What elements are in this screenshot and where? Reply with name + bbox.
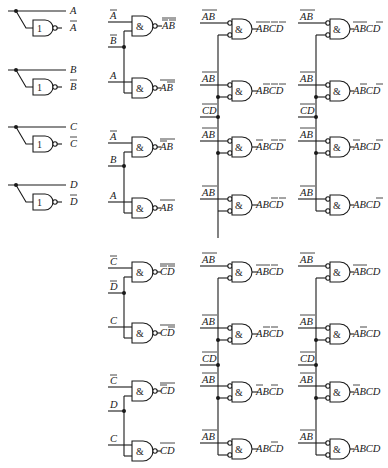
label-a: A <box>69 5 77 16</box>
output-minterm: ABCD <box>255 266 284 277</box>
output-minterm: ABCD <box>352 85 381 96</box>
and-column-3-top: AB & ABCD AB & ABCD CD AB <box>200 10 284 238</box>
and-symbol: & <box>235 329 243 340</box>
input-ab: AB <box>299 73 313 84</box>
input-ab: AB <box>299 129 313 140</box>
output-cd: CD <box>160 445 175 456</box>
input-ab: AB <box>299 254 313 265</box>
and-symbol: & <box>333 142 341 153</box>
input-ab: AB <box>201 431 215 442</box>
inverter-c: 1 C C <box>8 121 78 152</box>
output-minterm: ABCD <box>255 328 284 339</box>
output-minterm: ABCD <box>255 23 284 34</box>
input-ab: AB <box>201 374 215 385</box>
input-ab: AB <box>201 316 215 327</box>
input-ab: AB <box>201 254 215 265</box>
and-gate: AB & ABCD <box>298 72 381 101</box>
and-gate: AB & ABCD <box>298 186 381 215</box>
output-minterm: ABCD <box>255 386 284 397</box>
inverter-a: 1 A A <box>8 5 77 36</box>
label-a-bar: A <box>109 10 117 21</box>
label-c: C <box>110 433 118 444</box>
label-b-bar: B <box>70 81 77 92</box>
and-symbol: & <box>333 267 341 278</box>
output-ab: AB <box>159 202 173 213</box>
bus-cd: CD <box>300 105 315 116</box>
and-symbol: & <box>136 83 144 94</box>
label-c: C <box>70 121 78 132</box>
output-cd: CD <box>160 327 175 338</box>
label-a-bar: A <box>69 22 77 33</box>
and-gate: AB & ABCD <box>298 10 381 39</box>
and-symbol: & <box>136 328 144 339</box>
output-ab: AB <box>159 141 173 152</box>
label-b: B <box>110 154 117 165</box>
inverter-b: 1 B B <box>8 64 77 95</box>
and-gate: AB & ABCD <box>200 10 284 39</box>
nand-pair-ab-1: A & AB B A & AB <box>108 10 176 98</box>
and-column-4-top: AB & ABCD AB & ABCD CD AB <box>298 10 381 215</box>
and-gate: AB & ABCD <box>200 72 284 101</box>
bus-cd: CD <box>300 353 315 364</box>
label-c-bar: C <box>110 256 118 267</box>
label-b-bar: B <box>110 35 117 46</box>
and-symbol: & <box>235 387 243 398</box>
nand-pair-cd-2: C & CD D C & CD <box>108 375 175 461</box>
output-cd: CD <box>160 385 175 396</box>
inverter-symbol: 1 <box>37 23 42 34</box>
label-d: D <box>109 399 118 410</box>
and-symbol: & <box>235 142 243 153</box>
label-c-bar: C <box>70 138 78 149</box>
output-ab: AB <box>159 82 173 93</box>
and-symbol: & <box>333 24 341 35</box>
and-symbol: & <box>333 86 341 97</box>
and-gate: AB & ABCD <box>298 373 381 402</box>
and-symbol: & <box>136 21 144 32</box>
and-gate: AB & ABCD <box>200 128 284 157</box>
output-minterm: ABCD <box>352 23 381 34</box>
output-ab: AB <box>161 20 175 31</box>
output-minterm: ABCD <box>255 141 284 152</box>
and-symbol: & <box>333 200 341 211</box>
inverter-symbol: 1 <box>37 197 42 208</box>
label-c: C <box>110 315 118 326</box>
and-symbol: & <box>235 86 243 97</box>
and-gate: AB & ABCD <box>200 430 284 459</box>
and-symbol: & <box>136 446 144 457</box>
nand-pair-cd-1: C & CD D C & CD <box>108 256 175 343</box>
label-a: A <box>109 190 117 201</box>
and-column-3-bottom: AB & ABCD AB & ABCD CD AB <box>200 253 284 459</box>
and-column-4-bottom: AB & ABCD AB & ABCD CD AB <box>298 253 381 459</box>
and-symbol: & <box>235 24 243 35</box>
output-minterm: ABCD <box>352 141 381 152</box>
and-gate: AB & ABCD <box>200 315 284 344</box>
input-ab: AB <box>299 316 313 327</box>
label-d-bar: D <box>69 196 78 207</box>
label-c-bar: C <box>110 375 118 386</box>
input-ab: AB <box>299 11 313 22</box>
inverter-d: 1 D D <box>8 179 78 210</box>
input-ab: AB <box>299 374 313 385</box>
label-b: B <box>70 64 77 75</box>
and-symbol: & <box>333 444 341 455</box>
output-minterm: ABCD <box>255 85 284 96</box>
label-d-bar: D <box>109 281 118 292</box>
output-cd: CD <box>160 266 175 277</box>
inverter-symbol: 1 <box>37 82 42 93</box>
and-gate: AB & ABCD <box>298 128 381 157</box>
label-a-bar: A <box>109 131 117 142</box>
bus-cd: CD <box>202 105 217 116</box>
and-symbol: & <box>136 203 144 214</box>
input-ab: AB <box>201 187 215 198</box>
input-ab: AB <box>201 129 215 140</box>
and-gate: AB & ABCD <box>200 186 284 215</box>
input-ab: AB <box>299 187 313 198</box>
label-d: D <box>69 179 78 190</box>
and-symbol: & <box>235 200 243 211</box>
and-gate: AB & ABCD <box>298 315 381 344</box>
decoder-diagram: 1 A A 1 B B 1 C C 1 <box>0 0 388 468</box>
label-a: A <box>109 70 117 81</box>
output-minterm: ABCD <box>352 266 381 277</box>
and-gate: AB & ABCD <box>298 253 381 282</box>
output-minterm: ABCD <box>352 386 381 397</box>
